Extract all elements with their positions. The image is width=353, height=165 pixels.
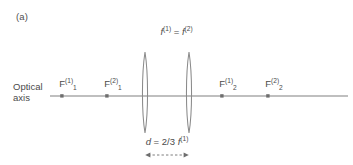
focal-point-label-F-1-2-superscript: (1) [225, 77, 233, 84]
lens-1-outline [142, 52, 147, 133]
focal-point-label-F-2-1: F(2)1 [104, 78, 122, 89]
focal-point-marker-F-1-1 [60, 94, 63, 97]
separation-arrow-head-right [184, 153, 189, 158]
focal-point-label-F-1-1-subscript: 1 [73, 84, 77, 91]
focal-point-label-F-1-2-subscript: 2 [233, 84, 237, 91]
separation-arrow-head-left [145, 153, 150, 158]
focal-point-marker-F-1-2 [220, 94, 223, 97]
focal-point-label-F-2-2: F(2)2 [265, 78, 283, 89]
separation-value: 2/3 [162, 136, 178, 147]
lens-2 [186, 52, 191, 133]
separation-dimension-label: d = 2/3 f(1) [146, 136, 189, 147]
focal-point-marker-F-2-2 [266, 94, 269, 97]
lens-2-outline [186, 52, 191, 133]
focal-point-label-F-1-2: F(1)2 [219, 78, 237, 89]
lens-1 [142, 52, 147, 133]
separation-dimension-arrow [145, 153, 189, 158]
focal-point-label-F-2-1-subscript: 1 [118, 84, 122, 91]
focal-point-label-F-1-1-superscript: (1) [65, 77, 73, 84]
focal-point-label-F-1-1: F(1)1 [59, 78, 77, 89]
separation-equals: = [151, 136, 162, 147]
optical-system-diagram: (a) f(1) = f(2) Optical axis [0, 0, 353, 165]
focal-point-label-F-2-2-superscript: (2) [271, 77, 279, 84]
focal-point-marker-F-2-1 [105, 94, 108, 97]
separation-focal-superscript: (1) [180, 135, 188, 142]
focal-point-label-F-2-1-superscript: (2) [110, 77, 118, 84]
focal-point-label-F-2-2-subscript: 2 [279, 84, 283, 91]
